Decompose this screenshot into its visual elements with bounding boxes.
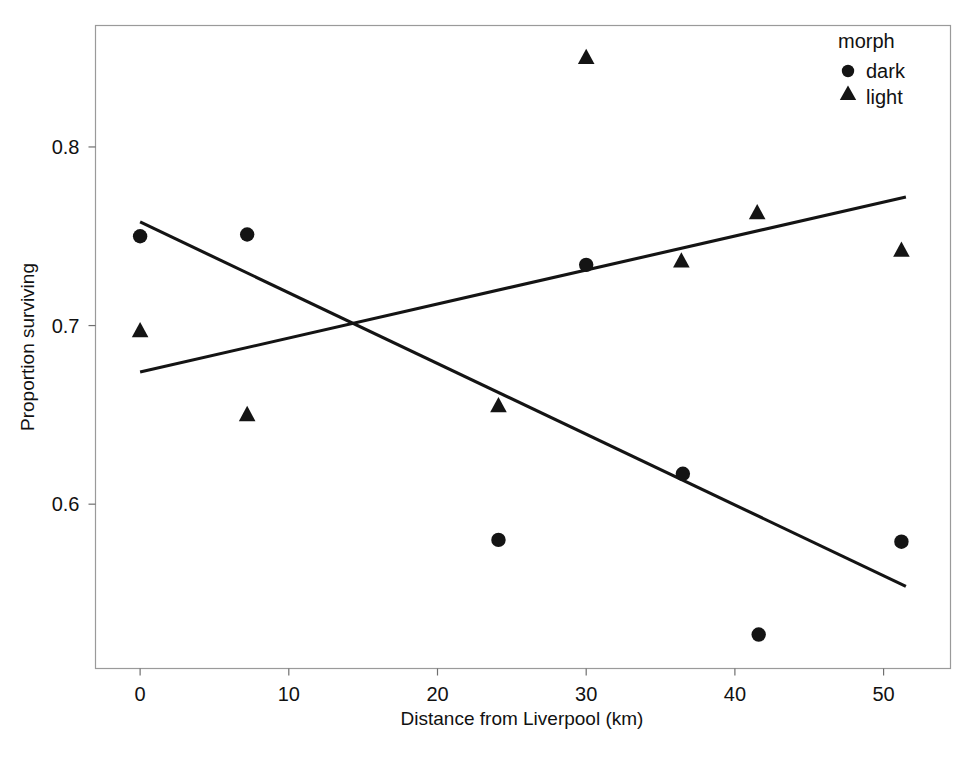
legend-dark-icon [842, 65, 854, 77]
data-point-dark [133, 229, 147, 243]
y-tick-label: 0.8 [52, 136, 80, 158]
legend-light-label[interactable]: light [866, 86, 903, 108]
data-point-dark [491, 533, 505, 547]
scatter-plot-figure: 01020304050 0.60.70.8 Distance from Live… [0, 0, 977, 758]
data-point-dark [240, 227, 254, 241]
x-tick-label: 0 [135, 683, 146, 705]
x-tick-label: 50 [872, 683, 894, 705]
legend-title: morph [838, 30, 895, 52]
data-point-dark [676, 467, 690, 481]
x-tick-label: 30 [575, 683, 597, 705]
y-tick-label: 0.6 [52, 493, 80, 515]
x-tick-label: 10 [278, 683, 300, 705]
data-point-dark [751, 627, 765, 641]
figure-background [0, 0, 977, 758]
y-axis-title: Proportion surviving [17, 263, 38, 431]
x-tick-label: 20 [426, 683, 448, 705]
x-axis-title: Distance from Liverpool (km) [401, 708, 644, 729]
legend-dark-label[interactable]: dark [866, 60, 906, 82]
data-point-dark [579, 258, 593, 272]
x-tick-label: 40 [724, 683, 746, 705]
data-point-dark [894, 534, 908, 548]
plot-svg: 01020304050 0.60.70.8 Distance from Live… [0, 0, 977, 758]
y-tick-label: 0.7 [52, 315, 80, 337]
